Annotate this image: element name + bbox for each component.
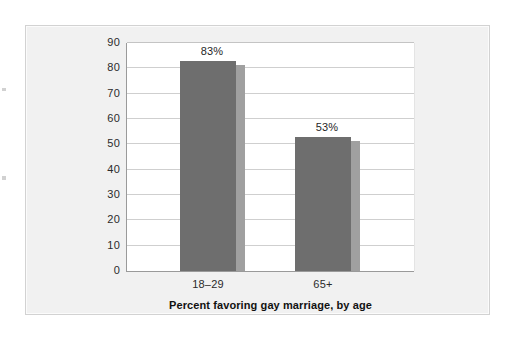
gridline-10: 10 [127,245,414,246]
xtick-label-65-plus: 65+ [313,278,332,290]
gridline-0: 0 [127,270,414,271]
bar-group-18-29[interactable]: 83% 18–29 [180,61,236,271]
gridline-40: 40 [127,169,414,170]
bar-value-65-plus: 53% [316,121,339,133]
ytick-label-40: 40 [107,163,120,175]
ytick-label-30: 30 [107,188,120,200]
figure-frame: 90 80 70 60 50 40 30 20 10 0 [25,25,490,315]
gridline-70: 70 [127,93,414,94]
bar-18-29-side-face [236,65,245,271]
gridline-60: 60 [127,118,414,119]
ytick-label-90: 90 [107,36,120,48]
scan-speckle-lower [2,176,6,180]
gridline-20: 20 [127,219,414,220]
gridline-90: 90 [127,42,414,43]
bar-65-plus-side-face [351,141,360,271]
gridline-50: 50 [127,143,414,144]
bar-value-18-29: 83% [201,45,224,57]
gridline-30: 30 [127,194,414,195]
bar-65-plus[interactable] [295,137,351,271]
bar-18-29[interactable] [180,61,236,271]
ytick-label-60: 60 [107,112,120,124]
ytick-label-70: 70 [107,87,120,99]
ytick-label-80: 80 [107,61,120,73]
ytick-label-20: 20 [107,213,120,225]
bar-chart-plot-area: 90 80 70 60 50 40 30 20 10 0 [126,43,414,272]
ytick-label-0: 0 [114,264,120,276]
bar-group-65-plus[interactable]: 53% 65+ [295,137,351,271]
scan-speckle-upper [2,88,6,91]
xtick-label-18-29: 18–29 [192,278,224,290]
gridline-80: 80 [127,67,414,68]
ytick-label-10: 10 [107,239,120,251]
x-axis-title: Percent favoring gay marriage, by age [127,299,414,311]
ytick-label-50: 50 [107,137,120,149]
plot-right-edge [414,43,415,271]
